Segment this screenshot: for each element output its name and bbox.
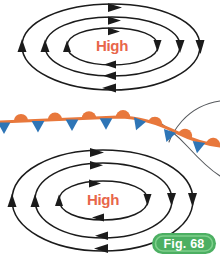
- weather-map-figure: High: [0, 0, 220, 259]
- cold-front-barb-2: [32, 121, 45, 133]
- high-pressure-north-system: High: [18, 3, 205, 92]
- flow-arrow-south-right-inner: [144, 194, 152, 206]
- high-label-north: High: [96, 37, 128, 54]
- flow-arrow-south-left-middle: [31, 194, 40, 207]
- flow-arrow-north-left-outer: [18, 39, 27, 52]
- warm-front-bump-2: [48, 113, 62, 120]
- warm-front-bump-4: [116, 110, 130, 117]
- warm-front-bump-3: [82, 111, 96, 118]
- cold-front-barb-3: [66, 120, 79, 132]
- flow-arrow-south-right-middle: [167, 193, 176, 206]
- high-label-south: High: [87, 191, 119, 208]
- flow-arrow-north-right-inner: [154, 40, 162, 52]
- flow-arrow-north-right-middle: [176, 40, 185, 53]
- flow-arrow-north-bottom-middle: [103, 72, 116, 81]
- flow-arrow-north-bottom-inner: [104, 61, 116, 69]
- flow-arrow-south-left-outer: [8, 194, 17, 208]
- figure-caption-text: Fig. 68: [164, 237, 205, 251]
- cold-front-barb-4: [100, 118, 113, 130]
- flow-arrow-south-right-outer: [188, 193, 197, 207]
- flow-arrow-north-bottom-outer: [102, 84, 116, 93]
- warm-front-bump-1: [14, 114, 28, 121]
- figure-caption-badge: Fig. 68: [152, 233, 216, 254]
- flow-arrow-north-left-inner: [63, 41, 71, 53]
- weather-diagram-canvas: High: [0, 0, 220, 259]
- warm-front-bump-7: [206, 137, 220, 146]
- flow-arrow-north-left-middle: [41, 40, 50, 53]
- flow-arrow-south-left-inner: [55, 195, 63, 207]
- cold-front-barb-1: [0, 122, 10, 133]
- flow-arrow-north-right-outer: [196, 40, 205, 54]
